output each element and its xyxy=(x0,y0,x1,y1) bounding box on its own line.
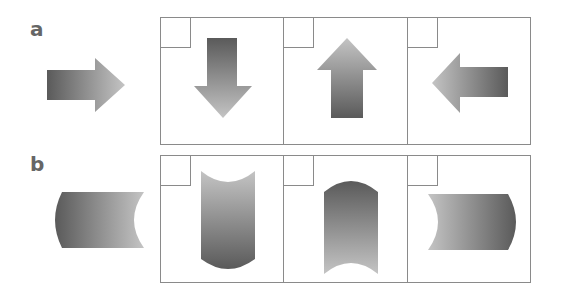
answer-box[interactable] xyxy=(284,18,314,48)
answer-box[interactable] xyxy=(161,156,191,186)
cylinder-vertical-concave-bottom-icon xyxy=(324,178,378,274)
arrow-up-icon xyxy=(317,38,377,118)
arrow-down-icon xyxy=(194,38,252,118)
options-row-b xyxy=(160,155,531,283)
answer-box[interactable] xyxy=(408,18,438,48)
option-b-2[interactable] xyxy=(284,156,407,282)
answer-box[interactable] xyxy=(161,18,191,48)
answer-box[interactable] xyxy=(408,156,438,186)
row-label-a: a xyxy=(30,17,44,41)
stimulus-arrow-right-icon xyxy=(47,58,125,112)
options-row-a xyxy=(160,17,531,145)
option-b-1[interactable] xyxy=(161,156,284,282)
option-a-2[interactable] xyxy=(284,18,407,144)
arrow-left-icon xyxy=(432,53,508,113)
stimulus-cylinder-icon xyxy=(48,192,144,248)
option-b-3[interactable] xyxy=(408,156,530,282)
option-a-3[interactable] xyxy=(408,18,530,144)
cylinder-horizontal-concave-left-icon xyxy=(428,194,520,250)
row-label-b: b xyxy=(30,152,44,176)
option-a-1[interactable] xyxy=(161,18,284,144)
cylinder-vertical-concave-top-icon xyxy=(201,171,255,271)
answer-box[interactable] xyxy=(284,156,314,186)
